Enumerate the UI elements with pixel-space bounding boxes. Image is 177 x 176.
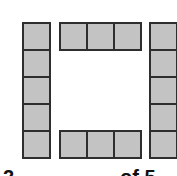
tile — [151, 132, 176, 157]
tile — [24, 24, 49, 49]
tile — [115, 24, 140, 49]
tile — [151, 105, 176, 130]
tile — [151, 51, 176, 76]
caption-left-fragment: 2 — [3, 166, 14, 176]
tile — [151, 24, 176, 49]
left-tile-column — [22, 22, 51, 159]
caption: 2 of 5 — [0, 166, 177, 176]
tile — [24, 51, 49, 76]
tile — [61, 24, 86, 49]
bottom-tile-row — [59, 130, 142, 159]
caption-right-fragment: of 5 — [120, 166, 156, 176]
tile — [61, 132, 86, 157]
tile — [88, 132, 113, 157]
right-tile-column — [149, 22, 177, 159]
tile — [88, 24, 113, 49]
tile — [115, 132, 140, 157]
tile — [24, 132, 49, 157]
tile — [24, 78, 49, 103]
tile — [151, 78, 176, 103]
tile — [24, 105, 49, 130]
top-tile-row — [59, 22, 142, 51]
